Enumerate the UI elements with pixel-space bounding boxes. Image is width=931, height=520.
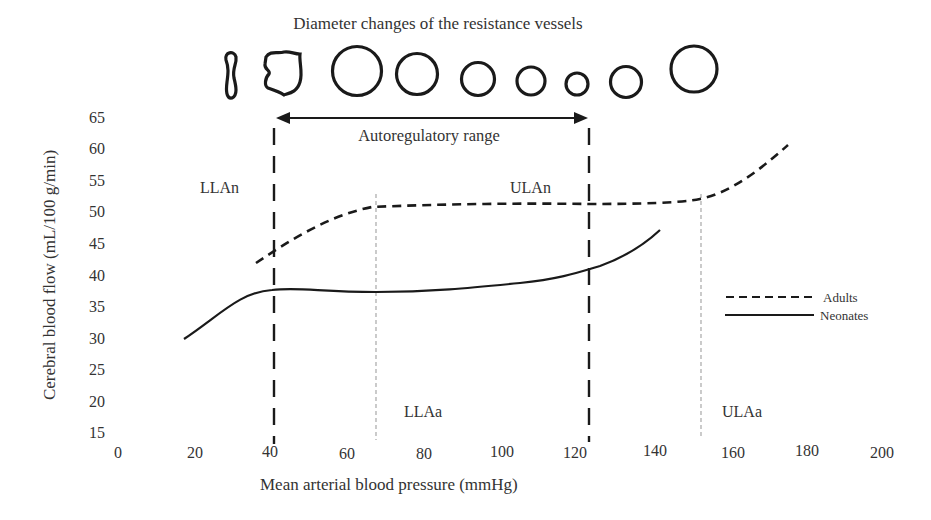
chart-title: Diameter changes of the resistance vesse… [293,14,582,33]
vessel-diagrams [226,46,717,98]
x-axis-label: Mean arterial blood pressure (mmHg) [260,475,518,494]
llan-label: LLAn [200,179,239,196]
legend-adults-label: Adults [823,290,858,305]
llaa-label: LLAa [404,403,442,420]
autoregulatory-range-arrow [276,112,588,124]
y-tick: 50 [89,203,105,220]
vessel-irregular-icon [265,52,301,95]
x-tick: 160 [721,444,745,461]
ulan-label: ULAn [510,179,551,196]
y-axis-ticks: 65 60 55 50 45 40 35 30 25 20 15 [89,109,105,441]
legend: Adults Neonates [725,290,868,323]
vessel-circle-icon [517,67,545,95]
x-tick: 60 [339,445,355,462]
y-tick: 35 [89,298,105,315]
x-tick: 140 [643,442,667,459]
vessel-circle-icon [611,67,642,98]
autoregulatory-range-label: Autoregulatory range [358,126,500,145]
adults-curve [256,145,788,263]
vessel-circle-icon [671,46,717,92]
y-tick: 65 [89,109,105,126]
ulaa-label: ULAa [722,403,762,420]
vessel-circle-icon [397,54,438,95]
y-tick: 45 [89,235,105,252]
y-axis-label: Cerebral blood flow (mL/100 g/min) [40,150,59,400]
y-tick: 30 [89,330,105,347]
x-tick: 180 [795,442,819,459]
x-tick: 100 [490,443,514,460]
y-tick: 15 [89,424,105,441]
chart-canvas: Diameter changes of the resistance vesse… [0,0,931,520]
vessel-circle-icon [462,63,495,96]
y-tick: 60 [89,140,105,157]
y-tick: 55 [89,172,105,189]
x-axis-ticks: 0 20 40 60 80 100 120 140 160 180 200 [114,442,894,462]
legend-neonates-label: Neonates [820,308,868,323]
x-tick: 40 [262,443,278,460]
x-tick: 20 [187,444,203,461]
y-tick: 20 [89,393,105,410]
y-tick: 40 [89,267,105,284]
vessel-circle-icon [333,47,382,96]
vessel-circle-icon [566,73,588,95]
x-tick: 80 [416,445,432,462]
x-tick: 120 [563,444,587,461]
vessel-collapsed-tube-icon [226,53,236,98]
x-tick: 200 [870,444,894,461]
y-tick: 25 [89,361,105,378]
x-tick: 0 [114,444,122,461]
